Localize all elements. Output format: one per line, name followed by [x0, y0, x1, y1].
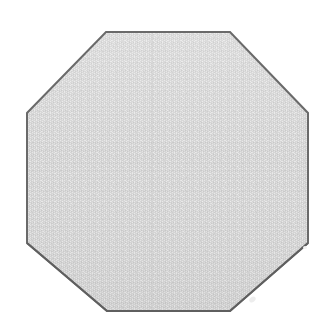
octagon-shading: [27, 32, 308, 311]
octagon-figure: [0, 0, 320, 331]
image-canvas: Regular octagon: [0, 0, 320, 331]
scan-band-right: [243, 32, 244, 311]
scan-band-left: [152, 32, 153, 311]
